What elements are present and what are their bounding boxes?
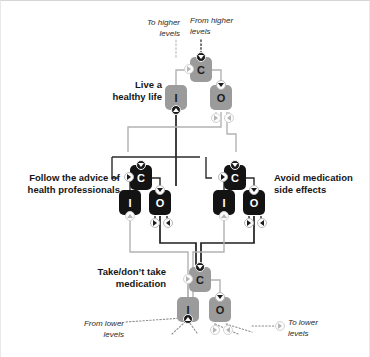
port-level1-comparator-top[interactable] xyxy=(196,52,206,62)
node-glyph: C xyxy=(197,64,205,76)
label-level2-left: Follow the advice of health professional… xyxy=(8,172,120,196)
port-level3-comparator-top[interactable] xyxy=(195,262,205,272)
port-level2-right-comparator-top[interactable] xyxy=(230,160,240,170)
port-level2-left-output-top[interactable] xyxy=(155,185,165,195)
node-glyph: C xyxy=(137,172,145,184)
port-level2-right-output-top[interactable] xyxy=(249,185,259,195)
chevron-right-icon xyxy=(278,323,282,329)
chevron-right-icon xyxy=(213,327,217,333)
node-glyph: O xyxy=(216,304,225,316)
label-from-lower-levels: From lower levels xyxy=(56,319,124,340)
node-glyph: I xyxy=(128,197,131,209)
chevron-down-icon xyxy=(251,188,257,192)
port-level2-right-output-branch-right[interactable] xyxy=(257,218,267,228)
port-level2-left-output-branch-right[interactable] xyxy=(163,218,173,228)
reference-links-mid-to-low xyxy=(160,216,254,265)
chevron-right-icon xyxy=(187,66,191,72)
chevron-left-icon xyxy=(166,220,170,226)
node-glyph: I xyxy=(222,197,225,209)
port-to-lower-levels[interactable] xyxy=(275,321,285,331)
node-glyph: C xyxy=(231,172,239,184)
chevron-up-icon xyxy=(221,214,227,218)
port-level2-left-comparator-left[interactable] xyxy=(124,172,134,182)
chevron-right-icon xyxy=(247,220,251,226)
chevron-right-icon xyxy=(153,220,157,226)
chevron-right-icon xyxy=(214,115,218,121)
label-to-lower-levels: To lower levels xyxy=(288,318,354,339)
chevron-down-icon xyxy=(217,295,223,299)
chevron-down-icon xyxy=(157,188,163,192)
chevron-right-icon xyxy=(186,276,190,282)
label-from-higher-levels: From higher levels xyxy=(190,16,260,37)
port-level2-right-comparator-left[interactable] xyxy=(218,172,228,182)
port-level3-output-branch-left[interactable] xyxy=(210,325,220,335)
port-level2-left-input-bottom[interactable] xyxy=(125,211,135,221)
port-level1-comparator-left[interactable] xyxy=(184,64,194,74)
node-glyph: C xyxy=(196,274,204,286)
port-level3-input-bottom[interactable] xyxy=(183,314,193,324)
label-level1: Live a healthy life xyxy=(58,79,162,103)
chevron-left-icon xyxy=(260,220,264,226)
label-to-higher-levels: To higher levels xyxy=(120,18,180,39)
chevron-down-icon xyxy=(232,163,238,167)
label-level3: Take/don’t take medication xyxy=(66,266,166,290)
chevron-right-icon xyxy=(221,174,225,180)
chevron-up-icon xyxy=(185,317,191,321)
node-glyph: O xyxy=(217,92,226,104)
chevron-down-icon xyxy=(197,265,203,269)
port-level1-output-branch-left[interactable] xyxy=(211,113,221,123)
port-level2-left-comparator-top[interactable] xyxy=(136,160,146,170)
port-level2-right-output-branch-left[interactable] xyxy=(244,218,254,228)
chevron-down-icon xyxy=(198,55,204,59)
chevron-up-icon xyxy=(127,214,133,218)
port-level3-output-branch-right[interactable] xyxy=(223,325,233,335)
port-level1-output-top[interactable] xyxy=(216,80,226,90)
chevron-up-icon xyxy=(173,108,179,112)
port-level3-output-top[interactable] xyxy=(215,292,225,302)
port-level2-left-output-branch-left[interactable] xyxy=(150,218,160,228)
port-level3-comparator-left[interactable] xyxy=(183,274,193,284)
port-level1-output-branch-right[interactable] xyxy=(224,113,234,123)
chevron-down-icon xyxy=(218,83,224,87)
node-glyph: O xyxy=(250,197,259,209)
port-level1-input-bottom[interactable] xyxy=(171,105,181,115)
node-glyph: I xyxy=(174,92,177,104)
port-level2-right-input-bottom[interactable] xyxy=(219,211,229,221)
node-glyph: O xyxy=(156,197,165,209)
chevron-left-icon xyxy=(226,327,230,333)
chevron-right-icon xyxy=(127,174,131,180)
chevron-down-icon xyxy=(138,163,144,167)
chevron-left-icon xyxy=(227,115,231,121)
label-level2-right: Avoid medication side effects xyxy=(274,172,368,196)
